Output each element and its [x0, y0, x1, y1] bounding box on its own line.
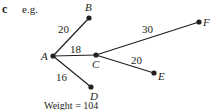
node-D: [88, 84, 93, 89]
node-B: [86, 15, 91, 20]
node-label-F: F: [202, 16, 210, 28]
edge-weight-AB: 20: [58, 23, 70, 35]
node-label-E: E: [157, 70, 165, 82]
weighted-tree-diagram: 2018302016ABCDEF: [0, 0, 213, 110]
edge-weight-AC: 18: [70, 43, 82, 55]
node-F: [196, 19, 201, 24]
total-weight-caption: Weight = 104: [44, 100, 98, 110]
node-E: [151, 70, 156, 75]
node-A: [50, 53, 55, 58]
node-label-A: A: [40, 50, 48, 62]
edge-weight-AD: 16: [56, 71, 68, 83]
node-C: [93, 52, 98, 57]
node-label-C: C: [92, 58, 100, 70]
edge-AC: [53, 55, 96, 56]
edge-weight-CE: 20: [131, 54, 143, 66]
edge-CE: [96, 55, 154, 73]
node-label-B: B: [85, 1, 92, 13]
edge-weight-CF: 30: [142, 23, 154, 35]
